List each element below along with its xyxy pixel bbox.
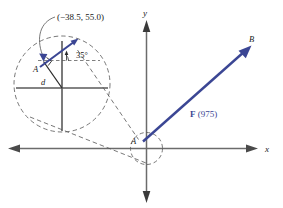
inset-distance-segment	[44, 62, 63, 89]
figure-container: (−38.5, 55.0) 35° A d A B x y F (975)	[0, 0, 283, 208]
force-vector-shaft	[143, 51, 245, 142]
force-label-group: F (975)	[190, 109, 217, 119]
point-a-origin-label: A	[130, 136, 137, 146]
point-b-label: B	[249, 34, 254, 44]
coordinate-label: (−38.5, 55.0)	[57, 12, 104, 22]
y-axis-top-arrowhead	[143, 20, 151, 32]
distance-d-label: d	[41, 77, 46, 87]
force-magnitude-label: (975)	[198, 109, 218, 119]
point-a-inset-label: A	[32, 64, 39, 74]
vector-force-diagram: (−38.5, 55.0) 35° A d A B x y F (975)	[0, 0, 283, 208]
coordinate-leader-curve	[39, 17, 55, 55]
inset-axes-group	[16, 41, 108, 131]
inset-force-vector	[40, 39, 79, 68]
y-axis-label: y	[142, 8, 147, 18]
axes-group	[8, 20, 258, 203]
x-axis-label: x	[264, 144, 269, 154]
x-axis-right-arrowhead	[246, 145, 258, 153]
magnifier-leader-upper	[78, 50, 139, 140]
angle-label: 35°	[76, 50, 88, 60]
coordinate-leader	[39, 17, 55, 62]
y-axis-bottom-arrowhead	[143, 191, 151, 203]
inset-angle-tick-arrowhead	[65, 51, 69, 56]
x-axis-left-arrowhead	[8, 145, 20, 153]
force-vector-main	[143, 46, 252, 142]
